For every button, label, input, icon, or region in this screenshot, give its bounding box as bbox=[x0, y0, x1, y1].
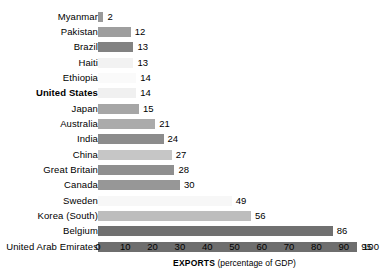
bar-row: United States14 bbox=[0, 86, 385, 101]
x-axis-tick-label: 30 bbox=[175, 241, 186, 252]
bar-track: 14 bbox=[98, 88, 371, 98]
x-axis-tick-label: 20 bbox=[147, 241, 158, 252]
bar-row: Belgium86 bbox=[0, 224, 385, 239]
bar-category-label: India bbox=[77, 134, 98, 144]
chart-plot-area: Myanmar2Pakistan12Brazil13Haiti13Ethiopi… bbox=[0, 9, 385, 255]
bar bbox=[98, 226, 333, 236]
bar-track: 56 bbox=[98, 211, 371, 221]
bar bbox=[98, 134, 164, 144]
bar-value-label: 13 bbox=[133, 42, 148, 52]
bar-value-label: 49 bbox=[232, 196, 247, 206]
x-axis-tick-label: 100 bbox=[363, 241, 379, 252]
bar-category-label: United Arab Emirates bbox=[6, 242, 98, 252]
bar-row: India24 bbox=[0, 132, 385, 147]
bar-category-label: Myanmar bbox=[58, 12, 98, 22]
bar-row: Australia21 bbox=[0, 116, 385, 131]
bar bbox=[98, 211, 251, 221]
bar-category-label: Great Britain bbox=[43, 165, 98, 175]
bar-row: Sweden49 bbox=[0, 193, 385, 208]
x-axis-tick-label: 70 bbox=[284, 241, 295, 252]
bar-track: 15 bbox=[98, 104, 371, 114]
bar-value-label: 21 bbox=[155, 119, 170, 129]
x-axis: 0102030405060708090100 bbox=[98, 241, 371, 255]
bar-row: Great Britain28 bbox=[0, 162, 385, 177]
bar-category-label: Ethiopia bbox=[63, 73, 98, 83]
bar-value-label: 56 bbox=[251, 211, 266, 221]
bar-track: 30 bbox=[98, 180, 371, 190]
bar bbox=[98, 104, 139, 114]
bar-category-label: Korea (South) bbox=[38, 211, 98, 221]
x-axis-tick-label: 60 bbox=[257, 241, 268, 252]
x-axis-tick-label: 50 bbox=[229, 241, 240, 252]
bar-row: Ethiopia14 bbox=[0, 70, 385, 85]
bar-row: China27 bbox=[0, 147, 385, 162]
x-axis-tick-label: 90 bbox=[338, 241, 349, 252]
bar-track: 49 bbox=[98, 196, 371, 206]
bar-value-label: 28 bbox=[174, 165, 189, 175]
bar bbox=[98, 196, 232, 206]
bar-value-label: 27 bbox=[172, 150, 187, 160]
bar bbox=[98, 150, 172, 160]
x-axis-title-strong: EXPORTS bbox=[173, 258, 215, 268]
bar-value-label: 12 bbox=[131, 27, 146, 37]
exports-bar-chart: Myanmar2Pakistan12Brazil13Haiti13Ethiopi… bbox=[0, 0, 385, 280]
bar-row: Brazil13 bbox=[0, 40, 385, 55]
bar bbox=[98, 165, 174, 175]
bar-track: 14 bbox=[98, 73, 371, 83]
bar-track: 2 bbox=[98, 12, 371, 22]
bar bbox=[98, 180, 180, 190]
bar-row: Japan15 bbox=[0, 101, 385, 116]
bar-track: 13 bbox=[98, 42, 371, 52]
bar-row: Korea (South)56 bbox=[0, 208, 385, 223]
bar bbox=[98, 119, 155, 129]
bar-value-label: 86 bbox=[333, 226, 348, 236]
x-axis-title-rest: (percentage of GDP) bbox=[215, 258, 296, 268]
x-axis-tick-label: 0 bbox=[95, 241, 100, 252]
bar-value-label: 30 bbox=[180, 180, 195, 190]
bar-track: 27 bbox=[98, 150, 371, 160]
bar-value-label: 13 bbox=[133, 58, 148, 68]
x-axis-title: EXPORTS (percentage of GDP) bbox=[98, 258, 371, 268]
bar-track: 86 bbox=[98, 226, 371, 236]
bar-category-label: Brazil bbox=[74, 42, 98, 52]
bar-value-label: 14 bbox=[136, 73, 151, 83]
bar-category-label: Japan bbox=[72, 104, 98, 114]
x-axis-tick-label: 40 bbox=[202, 241, 213, 252]
bar-category-label: Belgium bbox=[63, 226, 98, 236]
bar-category-label: Australia bbox=[60, 119, 98, 129]
bar-track: 24 bbox=[98, 134, 371, 144]
bar bbox=[98, 73, 136, 83]
bar bbox=[98, 58, 133, 68]
bar-row: Haiti13 bbox=[0, 55, 385, 70]
bar-category-label: Canada bbox=[64, 180, 98, 190]
bar-category-label: Pakistan bbox=[61, 27, 98, 37]
bar-value-label: 24 bbox=[164, 134, 179, 144]
x-axis-tick-label: 80 bbox=[311, 241, 322, 252]
bar bbox=[98, 88, 136, 98]
bar-category-label: Haiti bbox=[78, 58, 98, 68]
bar bbox=[98, 27, 131, 37]
bar-track: 28 bbox=[98, 165, 371, 175]
bar-category-label: Sweden bbox=[63, 196, 98, 206]
bar-value-label: 2 bbox=[103, 12, 112, 22]
bar-category-label: United States bbox=[36, 88, 98, 98]
bar-row: Pakistan12 bbox=[0, 24, 385, 39]
bar-row: Canada30 bbox=[0, 178, 385, 193]
bar-track: 12 bbox=[98, 27, 371, 37]
bar-category-label: China bbox=[73, 150, 98, 160]
bar-track: 13 bbox=[98, 58, 371, 68]
bar-value-label: 14 bbox=[136, 88, 151, 98]
bar-track: 21 bbox=[98, 119, 371, 129]
x-axis-tick-label: 10 bbox=[120, 241, 131, 252]
bar-value-label: 15 bbox=[139, 104, 154, 114]
bar-row: Myanmar2 bbox=[0, 9, 385, 24]
bar bbox=[98, 42, 133, 52]
